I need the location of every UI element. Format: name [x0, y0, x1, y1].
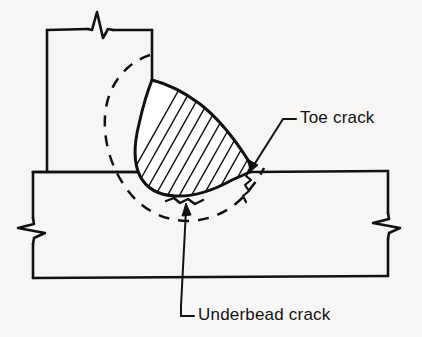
underbead-crack-label: Underbead crack — [198, 305, 330, 325]
weld-bead — [100, 70, 310, 230]
break-line-top — [88, 12, 113, 38]
toe-crack-leader — [249, 119, 296, 172]
underbead-crack — [166, 198, 203, 204]
toe-crack-label: Toe crack — [300, 108, 375, 128]
weld-crack-diagram — [0, 0, 422, 337]
break-line-left — [18, 218, 45, 244]
break-line-right — [373, 213, 400, 239]
weld-hatching — [100, 70, 310, 230]
figure-container: Toe crack Underbead crack — [0, 0, 422, 337]
